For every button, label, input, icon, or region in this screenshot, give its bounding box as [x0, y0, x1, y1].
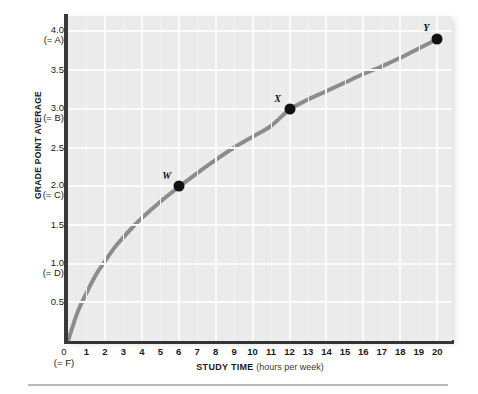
grid-line-vertical — [141, 16, 143, 341]
plot-area — [68, 16, 452, 341]
x-tick-5: 5 — [158, 346, 163, 357]
y-tick-grade: (= C) — [18, 190, 64, 200]
y-tick-value: 1.5 — [18, 220, 64, 230]
grid-line-vertical-minor — [197, 16, 198, 341]
x-tick-8: 8 — [213, 346, 218, 357]
x-tick-7: 7 — [195, 346, 200, 357]
y-axis-tick-labels: 4.0(= A)3.53.0(= B)2.52.0(= C)1.51.0(= D… — [12, 0, 64, 394]
y-tick-2-0: 2.0(= C) — [18, 180, 64, 200]
y-axis-line — [64, 14, 68, 343]
y-tick-0-5: 0.5 — [18, 297, 64, 307]
x-tick-3: 3 — [121, 346, 126, 357]
data-point-x[interactable] — [284, 103, 295, 114]
x-tick-2: 2 — [102, 346, 107, 357]
y-tick-grade: (= B) — [18, 113, 64, 123]
y-tick-grade: (= D) — [18, 268, 64, 278]
grid-line-horizontal — [68, 69, 452, 71]
origin-tick-value: 0 — [44, 346, 84, 357]
grid-line-vertical — [289, 16, 291, 341]
y-tick-3-5: 3.5 — [18, 65, 64, 75]
x-axis-title: STUDY TIME (hours per week) — [68, 362, 452, 372]
y-tick-4-0: 4.0(= A) — [18, 25, 64, 45]
grid-line-vertical — [362, 16, 364, 341]
data-point-label-w: W — [162, 170, 171, 181]
grid-line-vertical-minor — [271, 16, 272, 341]
x-tick-10: 10 — [247, 346, 258, 357]
data-point-y[interactable] — [432, 34, 443, 45]
grid-line-vertical — [104, 16, 106, 341]
data-point-label-y: Y — [423, 22, 429, 33]
x-tick-6: 6 — [176, 346, 181, 357]
grid-line-vertical-minor — [123, 16, 124, 341]
grid-line-vertical — [325, 16, 327, 341]
curve-layer — [68, 16, 452, 341]
grid-line-vertical-minor — [308, 16, 309, 341]
grid-line-vertical-minor — [234, 16, 235, 341]
x-axis-title-main: STUDY TIME — [196, 362, 253, 372]
grid-line-horizontal — [68, 263, 452, 265]
x-tick-16: 16 — [358, 346, 369, 357]
grid-line-horizontal — [68, 301, 452, 303]
data-point-w[interactable] — [173, 181, 184, 192]
x-tick-18: 18 — [395, 346, 406, 357]
x-tick-1: 1 — [84, 346, 89, 357]
x-tick-20: 20 — [432, 346, 443, 357]
grid-line-horizontal — [68, 185, 452, 187]
x-tick-9: 9 — [231, 346, 236, 357]
grid-line-vertical-minor — [419, 16, 420, 341]
x-axis-title-unit: (hours per week) — [254, 362, 324, 372]
y-tick-1-5: 1.5 — [18, 220, 64, 230]
grid-line-horizontal — [68, 224, 452, 226]
x-tick-12: 12 — [284, 346, 295, 357]
grid-line-vertical — [252, 16, 254, 341]
data-point-label-x: X — [274, 92, 281, 103]
grid-line-horizontal — [68, 30, 452, 32]
bottom-divider — [28, 384, 448, 386]
x-tick-11: 11 — [266, 346, 276, 357]
x-tick-19: 19 — [413, 346, 424, 357]
grid-line-vertical-minor — [345, 16, 346, 341]
y-tick-value: 0.5 — [18, 297, 64, 307]
grid-line-vertical — [178, 16, 180, 341]
x-tick-14: 14 — [321, 346, 332, 357]
y-tick-3-0: 3.0(= B) — [18, 103, 64, 123]
x-tick-13: 13 — [303, 346, 314, 357]
grid-line-horizontal — [68, 108, 452, 110]
grid-line-vertical-minor — [160, 16, 161, 341]
y-tick-2-5: 2.5 — [18, 143, 64, 153]
grid-line-horizontal — [68, 147, 452, 149]
y-tick-value: 3.5 — [18, 65, 64, 75]
x-tick-17: 17 — [377, 346, 388, 357]
grid-line-vertical — [399, 16, 401, 341]
grid-line-vertical — [436, 16, 438, 341]
y-tick-1-0: 1.0(= D) — [18, 258, 64, 278]
y-tick-grade: (= A) — [18, 35, 64, 45]
gpa-study-time-chart: GRADE POINT AVERAGE 4.0(= A)3.53.0(= B)2… — [0, 0, 478, 394]
y-tick-value: 2.5 — [18, 143, 64, 153]
grid-line-vertical-minor — [382, 16, 383, 341]
grid-line-vertical-minor — [86, 16, 87, 341]
x-tick-4: 4 — [139, 346, 144, 357]
grid-line-vertical — [215, 16, 217, 341]
x-tick-15: 15 — [340, 346, 351, 357]
plot-grid — [68, 16, 452, 341]
